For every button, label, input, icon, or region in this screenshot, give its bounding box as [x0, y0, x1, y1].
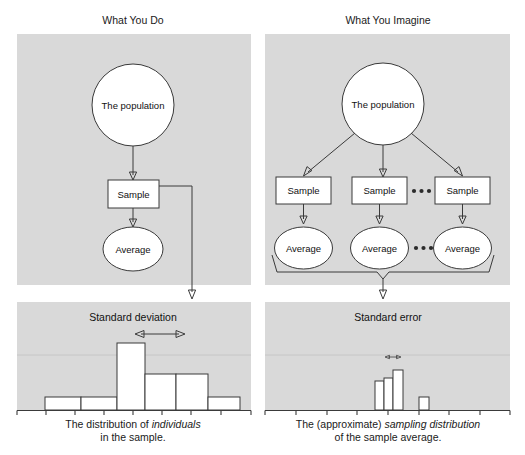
left-histogram-caption-line1: The distribution of individuals: [65, 418, 201, 430]
right-caption-italic-1: sampling distribution: [384, 418, 480, 430]
left-sample-label: Sample: [117, 189, 149, 200]
right-histogram-bar-1: [375, 381, 384, 410]
sample-ellipsis-dot-2: [419, 189, 423, 193]
left-histogram-bar-6: [208, 397, 240, 410]
left-histogram-caption-line2: in the sample.: [100, 431, 165, 443]
average-ellipsis-dot-2: [421, 246, 425, 250]
left-population-label: The population: [102, 100, 165, 111]
left-histogram-bar-5: [176, 374, 208, 410]
left-histogram-bar-1: [45, 397, 81, 410]
left-histogram-bar-2: [81, 397, 117, 410]
right-histogram-bar-3: [393, 370, 403, 410]
right-sample-label-1: Sample: [287, 185, 319, 196]
right-sample-label-3: Sample: [446, 185, 478, 196]
left-caption-italic-1: individuals: [152, 418, 202, 430]
panel-title-what-you-do: What You Do: [102, 14, 163, 26]
right-sample-label-2: Sample: [363, 185, 395, 196]
right-histogram-caption-line2: of the sample average.: [335, 431, 442, 443]
cropped-body-text-sliver: [0, 446, 525, 455]
left-histogram-bar-4: [145, 374, 176, 410]
statistics-diagram: What You Do What You Imagine The populat…: [0, 0, 525, 455]
panel-title-what-you-imagine: What You Imagine: [345, 14, 430, 26]
right-histogram-caption-line1: The (approximate) sampling distribution: [296, 418, 481, 430]
right-histogram-bar-4: [419, 397, 429, 410]
left-histogram-ticks: [17, 411, 251, 416]
right-average-label-3: Average: [445, 243, 480, 254]
right-histogram-heading: Standard error: [354, 311, 422, 323]
right-caption-plain-1: The (approximate): [296, 418, 385, 430]
left-caption-plain-1: The distribution of: [65, 418, 151, 430]
figure-canvas: What You Do What You Imagine The populat…: [0, 0, 525, 455]
right-average-label-2: Average: [362, 243, 397, 254]
left-histogram-bar-3: [117, 343, 145, 410]
sample-ellipsis-dot-3: [427, 189, 431, 193]
sample-ellipsis-dot-1: [412, 189, 416, 193]
average-ellipsis-dot-3: [429, 246, 433, 250]
right-histogram-bar-2: [384, 378, 393, 410]
left-average-label: Average: [115, 244, 150, 255]
right-population-label: The population: [352, 99, 415, 110]
right-histogram-ticks: [265, 411, 510, 416]
left-histogram-heading: Standard deviation: [89, 311, 177, 323]
right-average-label-1: Average: [286, 243, 321, 254]
average-ellipsis-dot-1: [414, 246, 418, 250]
